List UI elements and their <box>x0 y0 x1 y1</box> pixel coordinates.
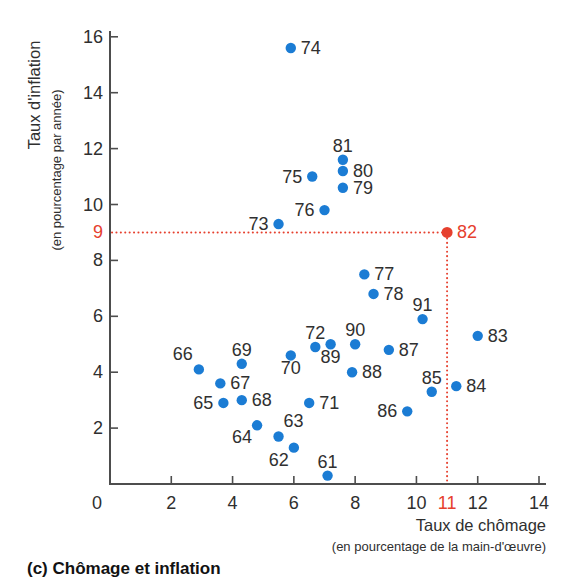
x-tick-label: 14 <box>529 493 549 513</box>
x-tick-label: 12 <box>468 493 488 513</box>
point-label-78: 78 <box>384 284 404 304</box>
y-tick-label: 10 <box>83 195 103 215</box>
point-73 <box>273 219 283 229</box>
point-label-64: 64 <box>232 427 252 447</box>
x-tick-label: 6 <box>289 493 299 513</box>
point-label-66: 66 <box>173 344 193 364</box>
point-label-87: 87 <box>399 340 419 360</box>
point-label-62: 62 <box>269 450 289 470</box>
y-tick-label: 16 <box>83 27 103 47</box>
point-74 <box>286 43 296 53</box>
y-tick-label: 8 <box>93 250 103 270</box>
point-label-65: 65 <box>193 393 213 413</box>
point-87 <box>384 345 394 355</box>
point-label-85: 85 <box>422 368 442 388</box>
point-label-63: 63 <box>284 411 304 431</box>
point-65 <box>218 398 228 408</box>
point-82 <box>442 227 453 238</box>
point-label-76: 76 <box>294 200 314 220</box>
point-90 <box>350 339 360 349</box>
point-63 <box>273 431 283 441</box>
point-label-83: 83 <box>488 326 508 346</box>
point-79 <box>338 183 348 193</box>
y-tick-label: 12 <box>83 139 103 159</box>
point-81 <box>338 155 348 165</box>
point-61 <box>322 470 332 480</box>
phillips-scatter-figure: 02468101214246810121416911Taux de chômag… <box>0 0 588 586</box>
point-71 <box>304 398 314 408</box>
x-axis-subtitle: (en pourcentage de la main-d'œuvre) <box>332 539 546 554</box>
point-label-77: 77 <box>374 264 394 284</box>
point-label-90: 90 <box>345 320 365 340</box>
point-80 <box>338 166 348 176</box>
point-64 <box>252 420 262 430</box>
y-tick-label: 14 <box>83 83 103 103</box>
y-axis-subtitle: (en pourcentage par année) <box>49 89 64 250</box>
point-67 <box>215 378 225 388</box>
point-label-72: 72 <box>305 323 325 343</box>
y-axis-title: Taux d'inflation <box>25 41 43 150</box>
point-label-82: 82 <box>457 222 477 242</box>
point-label-84: 84 <box>466 376 486 396</box>
y-tick-label: 4 <box>93 362 103 382</box>
point-label-68: 68 <box>252 390 272 410</box>
point-label-81: 81 <box>333 136 353 156</box>
highlight-x-tick-label: 11 <box>438 493 457 513</box>
point-label-91: 91 <box>413 295 433 315</box>
x-tick-label: 8 <box>350 493 360 513</box>
point-78 <box>368 289 378 299</box>
point-76 <box>319 205 329 215</box>
point-label-89: 89 <box>321 347 341 367</box>
point-69 <box>237 359 247 369</box>
highlight-y-tick-label: 9 <box>93 222 103 242</box>
x-tick-label: 2 <box>166 493 176 513</box>
point-label-71: 71 <box>319 393 339 413</box>
point-88 <box>347 367 357 377</box>
point-86 <box>402 406 412 416</box>
point-label-61: 61 <box>318 452 338 472</box>
point-62 <box>289 442 299 452</box>
point-75 <box>307 171 317 181</box>
point-label-73: 73 <box>249 214 269 234</box>
point-85 <box>427 387 437 397</box>
point-label-67: 67 <box>230 373 250 393</box>
scatter-chart: 02468101214246810121416911Taux de chômag… <box>0 0 588 558</box>
point-label-75: 75 <box>282 167 302 187</box>
y-tick-label: 6 <box>93 306 103 326</box>
point-77 <box>359 269 369 279</box>
point-83 <box>473 331 483 341</box>
y-tick-label: 2 <box>93 418 103 438</box>
point-66 <box>194 364 204 374</box>
point-91 <box>417 314 427 324</box>
point-label-86: 86 <box>377 401 397 421</box>
point-84 <box>451 381 461 391</box>
point-68 <box>237 395 247 405</box>
x-axis-title: Taux de chômage <box>416 516 546 534</box>
point-72 <box>310 342 320 352</box>
x-tick-label: 10 <box>406 493 426 513</box>
figure-caption: (c) Chômage et inflation <box>27 559 221 579</box>
x-tick-label: 0 <box>92 493 102 513</box>
point-label-70: 70 <box>281 358 301 378</box>
point-label-69: 69 <box>232 340 252 360</box>
x-tick-label: 4 <box>228 493 238 513</box>
point-label-74: 74 <box>301 38 321 58</box>
point-label-80: 80 <box>353 161 373 181</box>
point-label-88: 88 <box>362 362 382 382</box>
